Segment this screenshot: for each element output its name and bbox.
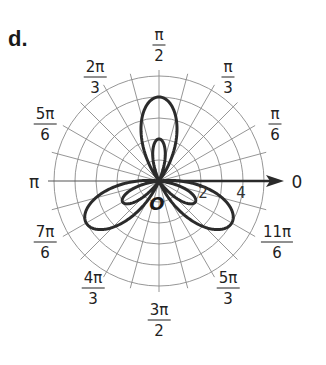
angle-denominator: 6 [40,243,50,261]
angle-denominator: 3 [88,289,98,307]
angle-numerator: 4π [82,270,105,289]
angle-label-210: 7π6 [34,224,57,261]
radial-tick-2: 2 [198,184,208,202]
angle-numerator: 2π [84,59,107,78]
angle-denominator: 3 [90,78,100,96]
angle-numerator: 3π [148,302,171,321]
angle-label-30: π6 [268,106,281,143]
angle-label-60: π3 [221,59,234,96]
angle-denominator: 2 [154,46,164,64]
angle-numerator: π [152,27,165,46]
part-label: d. [8,26,28,52]
angle-numerator: 11π [261,224,293,243]
angle-numerator: π [221,59,234,78]
angle-label-0: 0 [292,172,303,192]
radial-tick-4: 4 [236,184,246,202]
angle-denominator: 3 [223,289,233,307]
angle-label-120: 2π3 [84,59,107,96]
angle-denominator: 6 [270,125,280,143]
angle-label-300: 5π3 [217,270,240,307]
angle-label-90: π2 [152,27,165,64]
angle-numerator: 5π [34,106,57,125]
angle-label-330: 11π6 [261,224,293,261]
angle-denominator: 6 [272,243,282,261]
angle-label-270: 3π2 [148,302,171,339]
angle-denominator: 2 [154,321,164,339]
angle-numerator: 7π [34,224,57,243]
origin-label: O [149,193,164,214]
angle-numerator: 5π [217,270,240,289]
angle-label-150: 5π6 [34,106,57,143]
angle-denominator: 6 [40,125,50,143]
angle-numerator: π [268,106,281,125]
angle-label-240: 4π3 [82,270,105,307]
angle-label-180: π [29,172,39,192]
angle-denominator: 3 [223,78,233,96]
